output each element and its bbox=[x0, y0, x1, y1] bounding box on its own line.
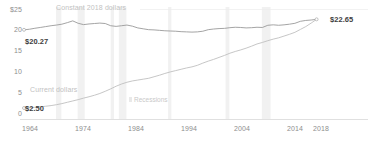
start-value-label: $20.27 bbox=[25, 37, 48, 46]
series-label-current-dollars: Current dollars bbox=[30, 86, 77, 93]
recession-band bbox=[56, 7, 61, 119]
chart-container: $25 20 15 10 5 0 1964 1974 1984 1994 200… bbox=[0, 0, 368, 146]
series-label-constant-dollars: Constant 2018 dollars bbox=[56, 4, 126, 11]
recession-band bbox=[119, 7, 127, 119]
recession-band bbox=[226, 7, 230, 119]
recession-band bbox=[111, 7, 114, 119]
y-axis-tick-10: 10 bbox=[0, 68, 22, 75]
recession-band bbox=[168, 7, 171, 119]
x-axis-tick-1984: 1984 bbox=[128, 125, 144, 132]
y-axis-tick-0: 0 bbox=[0, 110, 22, 117]
start-point-constant bbox=[23, 28, 26, 31]
y-axis-tick-25: $25 bbox=[0, 6, 22, 13]
recession-swatch-icon bbox=[129, 97, 132, 102]
end-value-label: $22.65 bbox=[330, 15, 353, 24]
x-axis-tick-1964: 1964 bbox=[22, 125, 38, 132]
x-axis-tick-1974: 1974 bbox=[75, 125, 91, 132]
x-axis-tick-2014: 2014 bbox=[287, 125, 303, 132]
y-axis-tick-5: 5 bbox=[0, 89, 22, 96]
y-axis-tick-20: 20 bbox=[0, 26, 22, 33]
y-axis-tick-15: 15 bbox=[0, 47, 22, 54]
recession-band bbox=[262, 7, 271, 119]
x-axis-tick-2018: 2018 bbox=[313, 125, 329, 132]
x-axis-tick-1994: 1994 bbox=[181, 125, 197, 132]
end-point-constant bbox=[315, 18, 318, 21]
axis-lines-group bbox=[20, 10, 368, 120]
recessions-legend-label: Recessions bbox=[134, 96, 168, 103]
current-start-value-label: $2.50 bbox=[25, 104, 44, 113]
x-axis-tick-2004: 2004 bbox=[234, 125, 250, 132]
